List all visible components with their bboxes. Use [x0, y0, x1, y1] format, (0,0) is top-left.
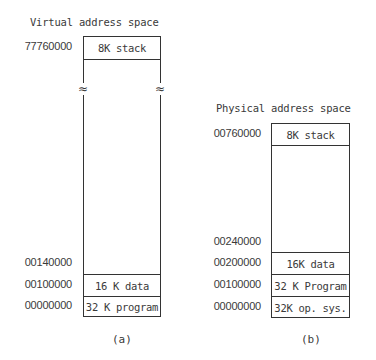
- segment-label: 32 K program: [86, 301, 158, 313]
- break-mark-icon: ≈: [155, 83, 165, 95]
- address-label: 00240000: [191, 235, 261, 247]
- address-label: 00140000: [2, 256, 72, 268]
- figure-caption-b: (b): [301, 333, 321, 346]
- address-label: 00200000: [191, 256, 261, 268]
- segment-label: 8K stack: [286, 129, 334, 141]
- data-segment: 16 K data: [84, 274, 160, 296]
- segment-label: 16K data: [286, 258, 334, 270]
- stack-segment: 8K stack: [84, 37, 160, 59]
- os-segment: 32K op. sys.: [272, 296, 349, 318]
- program-segment: 32 K program: [84, 296, 160, 317]
- physical-address-space-title: Physical address space: [216, 102, 351, 114]
- address-label: 00000000: [191, 300, 261, 312]
- program-segment: 32 K Program: [272, 274, 349, 296]
- address-label: 00000000: [2, 299, 72, 311]
- unused-segment: [272, 145, 349, 252]
- physical-memory-box: 8K stack 16K data 32 K Program 32K op. s…: [271, 123, 350, 318]
- stack-segment: 8K stack: [272, 124, 349, 145]
- segment-label: 32 K Program: [274, 280, 346, 292]
- address-label: 00100000: [191, 278, 261, 290]
- virtual-memory-box: 8K stack 16 K data 32 K program: [83, 36, 161, 317]
- address-label: 00100000: [2, 278, 72, 290]
- virtual-address-space-title: Virtual address space: [30, 16, 159, 28]
- segment-label: 32K op. sys.: [274, 302, 346, 314]
- data-segment: 16K data: [272, 252, 349, 274]
- segment-label: 8K stack: [98, 42, 146, 54]
- segment-label: 16 K data: [95, 280, 149, 292]
- address-label: 00760000: [191, 127, 261, 139]
- unused-segment: [84, 59, 160, 274]
- address-label: 77760000: [2, 40, 72, 52]
- break-mark-icon: ≈: [78, 83, 88, 95]
- figure-caption-a: (a): [112, 333, 132, 346]
